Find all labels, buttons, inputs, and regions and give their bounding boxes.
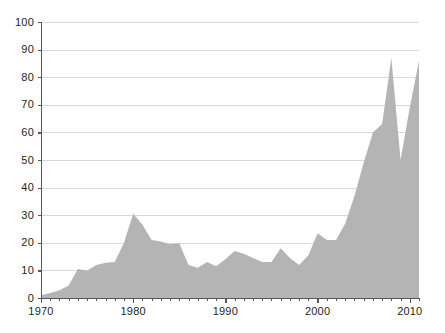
y-tick-marks <box>38 23 42 299</box>
axis-lines <box>0 0 445 333</box>
chart-figure: 0102030405060708090100 19701980199020002… <box>0 0 445 333</box>
x-tick-label: 2000 <box>296 306 340 317</box>
axis-spines <box>41 22 419 299</box>
x-tick-label: 2010 <box>388 306 432 317</box>
x-tick-label: 1990 <box>203 306 247 317</box>
x-tick-label: 1970 <box>19 306 63 317</box>
x-tick-label: 1980 <box>111 306 155 317</box>
cropped-caption-sliver <box>0 327 445 333</box>
